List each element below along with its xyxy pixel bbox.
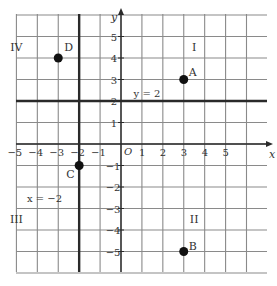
- y-tick-label: 3: [111, 75, 117, 86]
- y-tick-label: −4: [106, 225, 121, 236]
- y-tick-label: 4: [111, 53, 117, 64]
- x-tick-label: 4: [202, 147, 208, 158]
- quadrant-label-IV: IV: [10, 41, 23, 54]
- x-axis-label: x: [269, 148, 276, 161]
- point-D: [54, 54, 63, 63]
- y-tick-label: 2: [111, 96, 117, 107]
- coordinate-grid: xyO−5−4−3−2−11234554321−1−2−3−4−5y = 2x …: [0, 0, 277, 286]
- label-y-equals-2: y = 2: [133, 88, 161, 99]
- x-tick-label: 5: [223, 147, 229, 158]
- point-label-C: C: [66, 168, 74, 181]
- point-label-B: B: [189, 240, 197, 253]
- x-tick-label: −3: [49, 147, 64, 158]
- y-axis-arrow-icon: [118, 8, 124, 15]
- y-tick-label: −5: [106, 247, 121, 258]
- label-x-equals-neg2: x = −2: [27, 193, 62, 204]
- point-A: [179, 75, 188, 84]
- y-tick-label: −3: [106, 204, 121, 215]
- coordinate-plane-diagram: xyO−5−4−3−2−11234554321−1−2−3−4−5y = 2x …: [0, 0, 277, 286]
- x-tick-label: −2: [70, 147, 85, 158]
- quadrant-label-I: I: [192, 41, 196, 54]
- y-axis-label: y: [110, 11, 118, 24]
- x-tick-label: −4: [28, 147, 43, 158]
- x-tick-label: −5: [7, 147, 22, 158]
- point-label-A: A: [188, 66, 198, 79]
- x-tick-label: 1: [139, 147, 145, 158]
- x-tick-label: 2: [160, 147, 166, 158]
- x-axis-arrow-icon: [266, 141, 273, 147]
- point-C: [75, 161, 84, 170]
- y-tick-label: 5: [111, 32, 117, 43]
- y-tick-label: −1: [106, 161, 121, 172]
- x-tick-label: −1: [91, 147, 106, 158]
- quadrant-label-II: II: [190, 213, 199, 226]
- point-label-D: D: [64, 41, 73, 54]
- y-tick-label: 1: [111, 118, 117, 129]
- point-B: [179, 247, 188, 256]
- origin-label: O: [124, 146, 132, 157]
- x-tick-label: 3: [181, 147, 187, 158]
- quadrant-label-III: III: [10, 213, 23, 226]
- y-tick-label: −2: [106, 182, 121, 193]
